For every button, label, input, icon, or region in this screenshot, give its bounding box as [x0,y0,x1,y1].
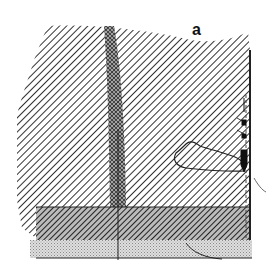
diagram-figure [0,0,276,278]
panel-label: a [192,22,201,38]
right-squiggle [254,178,266,192]
lower-dense-band [36,207,250,240]
upper-hatched-region [17,26,250,238]
bottom-stippled-layer [30,240,252,258]
